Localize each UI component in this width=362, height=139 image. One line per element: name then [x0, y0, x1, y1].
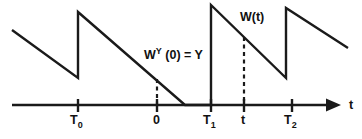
initial-condition-label: WY (0) = Y	[144, 47, 203, 62]
tick-label-T0-subscript: 0	[78, 120, 83, 130]
tick-label-T1-subscript: 1	[211, 120, 216, 130]
initial-condition-prefix: W	[144, 48, 156, 62]
tick-label-T1: T1	[203, 114, 216, 130]
tick-label-zero: 0	[153, 114, 160, 130]
tick-label-T2-base: T	[284, 113, 292, 127]
tick-label-t-base: t	[241, 113, 245, 127]
tick-label-T2: T2	[284, 114, 297, 130]
tick-label-t: t	[241, 114, 245, 130]
x-axis-label: t	[349, 99, 353, 112]
tick-label-T0: T0	[70, 114, 83, 130]
sawtooth-process-figure: T0 0 T1 t T2 t W(t) WY (0) = Y	[0, 0, 362, 139]
tick-label-zero-base: 0	[153, 113, 160, 127]
curve-label-w-of-t: W(t)	[240, 11, 264, 24]
tick-label-T0-base: T	[70, 113, 78, 127]
initial-condition-superscript: Y	[156, 46, 162, 56]
figure-canvas	[0, 0, 362, 139]
tick-label-T2-subscript: 2	[292, 120, 297, 130]
tick-label-T1-base: T	[203, 113, 211, 127]
x-axis-arrowhead	[326, 99, 341, 112]
initial-condition-suffix: (0) = Y	[165, 48, 203, 62]
